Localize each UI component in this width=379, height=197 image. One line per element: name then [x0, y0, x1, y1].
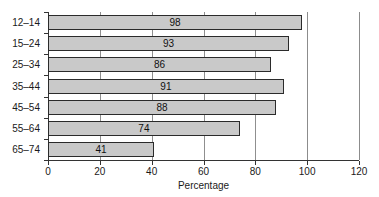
bar-value-label: 91: [151, 81, 181, 92]
x-axis-tick: [152, 161, 153, 165]
y-axis-tick: [44, 97, 48, 98]
bar-value-label: 88: [147, 102, 177, 113]
gridline-120: [359, 12, 360, 160]
x-axis-tick: [204, 161, 205, 165]
y-axis-tick-label: 15–24: [0, 38, 40, 49]
y-axis-tick-label: 12–14: [0, 17, 40, 28]
bar-value-label: 86: [144, 59, 174, 70]
y-axis-tick: [44, 118, 48, 119]
y-axis-tick-label: 25–34: [0, 59, 40, 70]
y-axis-tick: [44, 12, 48, 13]
y-axis-tick-label: 35–44: [0, 81, 40, 92]
x-axis-tick: [307, 161, 308, 165]
x-axis-tick-label: 120: [329, 166, 379, 178]
y-axis-tick: [44, 33, 48, 34]
x-axis-tick: [255, 161, 256, 165]
y-axis-tick-label: 55–64: [0, 123, 40, 134]
bar-chart: Percentage 9812–149315–248625–349135–448…: [0, 0, 379, 197]
y-axis-tick: [44, 139, 48, 140]
y-axis-tick-label: 45–54: [0, 102, 40, 113]
bar-value-label: 98: [160, 17, 190, 28]
y-axis-tick: [44, 75, 48, 76]
bar-value-label: 74: [129, 123, 159, 134]
bar-value-label: 41: [86, 144, 116, 155]
x-axis-tick: [48, 161, 49, 165]
gridline-100: [307, 12, 308, 160]
y-axis-tick-label: 65–74: [0, 144, 40, 155]
bar-value-label: 93: [154, 38, 184, 49]
x-axis-label: Percentage: [48, 180, 359, 192]
x-axis-tick: [359, 161, 360, 165]
x-axis-tick: [100, 161, 101, 165]
y-axis-tick: [44, 54, 48, 55]
